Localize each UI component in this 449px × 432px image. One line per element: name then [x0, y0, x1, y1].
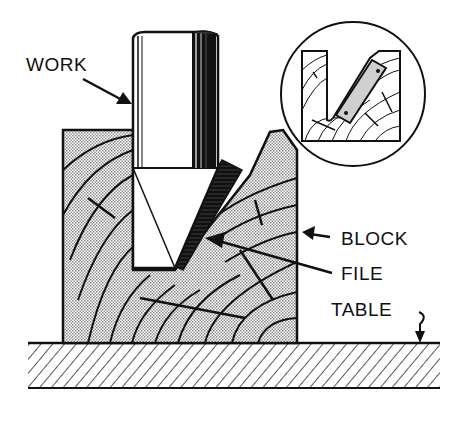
label-file: FILE [341, 263, 383, 284]
label-block: BLOCK [341, 228, 408, 249]
label-table: TABLE [331, 299, 392, 320]
arrow-table-icon [415, 312, 425, 343]
arrow-block-icon [302, 226, 330, 240]
label-work: WORK [26, 54, 87, 75]
v-block-filing-diagram: WORK BLOCK FILE TABLE [0, 0, 449, 432]
inset-detail-circle [281, 22, 425, 166]
arrow-work-icon [83, 79, 132, 104]
table [28, 343, 440, 388]
